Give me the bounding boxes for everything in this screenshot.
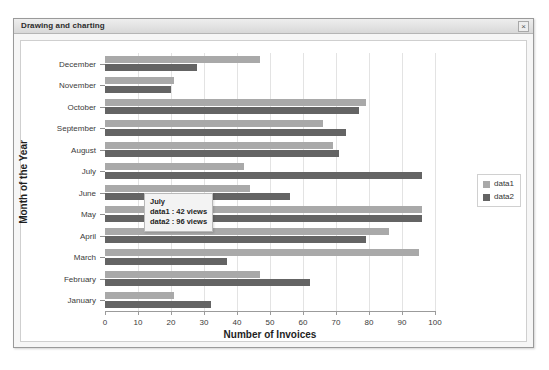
chart-panel: Number of Invoices Month of the Year dat…	[20, 40, 527, 342]
y-axis-tick	[100, 128, 105, 129]
x-gridline	[336, 53, 337, 311]
bar-data2-september[interactable]	[105, 129, 346, 136]
y-axis-tick	[100, 214, 105, 215]
bar-data1-october[interactable]	[105, 99, 366, 106]
bar-data1-february[interactable]	[105, 271, 260, 278]
tooltip-title: July	[150, 197, 207, 207]
window-title: Drawing and charting	[14, 22, 105, 30]
x-axis-tick	[402, 311, 403, 315]
x-axis-tick-label: 0	[103, 318, 107, 327]
y-axis-label: December	[21, 59, 96, 68]
x-axis-tick	[435, 311, 436, 315]
bar-data1-august[interactable]	[105, 142, 333, 149]
y-axis-tick	[100, 236, 105, 237]
bar-data2-november[interactable]	[105, 86, 171, 93]
x-axis-tick-label: 80	[365, 318, 374, 327]
bar-data2-august[interactable]	[105, 150, 339, 157]
x-gridline	[369, 53, 370, 311]
tooltip-data1-value: data1 : 42 views	[150, 207, 207, 217]
x-axis-tick	[270, 311, 271, 315]
y-axis-label: June	[21, 188, 96, 197]
x-axis-tick-label: 20	[167, 318, 176, 327]
legend-swatch-data1	[483, 181, 490, 188]
x-axis-tick-label: 40	[233, 318, 242, 327]
y-axis-tick	[100, 107, 105, 108]
y-axis-label: August	[21, 145, 96, 154]
x-axis-tick-label: 60	[299, 318, 308, 327]
y-axis-label: September	[21, 124, 96, 133]
y-axis-label: February	[21, 274, 96, 283]
y-axis-label: October	[21, 102, 96, 111]
bar-data1-november[interactable]	[105, 77, 174, 84]
chart-tooltip: July data1 : 42 views data2 : 96 views	[144, 193, 213, 232]
bar-data2-october[interactable]	[105, 107, 359, 114]
legend-label-data2: data2	[494, 193, 514, 201]
y-axis-tick	[100, 150, 105, 151]
x-axis-tick	[369, 311, 370, 315]
y-axis-tick	[100, 300, 105, 301]
legend-item[interactable]: data1	[483, 180, 516, 188]
x-axis-tick-label: 50	[266, 318, 275, 327]
chart-legend: data1 data2	[477, 174, 521, 207]
x-gridline	[435, 53, 436, 311]
y-axis-tick	[100, 193, 105, 194]
y-axis-label: May	[21, 210, 96, 219]
chart-canvas: Number of Invoices Month of the Year dat…	[21, 41, 526, 341]
y-axis-tick	[100, 64, 105, 65]
x-axis-tick	[105, 311, 106, 315]
bar-data1-march[interactable]	[105, 249, 419, 256]
x-axis-tick-label: 70	[332, 318, 341, 327]
legend-swatch-data2	[483, 194, 490, 201]
window-title-bar[interactable]: Drawing and charting ×	[14, 19, 533, 34]
x-axis-tick-label: 100	[428, 318, 441, 327]
bar-data1-july[interactable]	[105, 163, 244, 170]
x-gridline	[270, 53, 271, 311]
bar-data2-january[interactable]	[105, 301, 211, 308]
y-axis-tick	[100, 85, 105, 86]
x-axis-tick-label: 10	[134, 318, 143, 327]
bar-data2-december[interactable]	[105, 64, 197, 71]
y-axis-label: July	[21, 167, 96, 176]
bar-data2-april[interactable]	[105, 236, 366, 243]
x-axis-tick-label: 30	[200, 318, 209, 327]
x-gridline	[402, 53, 403, 311]
y-axis-label: November	[21, 81, 96, 90]
close-icon[interactable]: ×	[518, 21, 529, 32]
bar-data1-september[interactable]	[105, 120, 323, 127]
bar-data1-december[interactable]	[105, 56, 260, 63]
drawing-and-charting-window: Drawing and charting × Number of Invoice…	[13, 18, 534, 348]
tooltip-data2-value: data2 : 96 views	[150, 217, 207, 227]
y-axis-tick	[100, 279, 105, 280]
x-axis-tick-label: 90	[398, 318, 407, 327]
x-axis-tick	[171, 311, 172, 315]
bar-data2-march[interactable]	[105, 258, 227, 265]
x-axis-tick	[336, 311, 337, 315]
x-gridline	[303, 53, 304, 311]
bar-data2-july[interactable]	[105, 172, 422, 179]
plot-area	[105, 53, 435, 311]
legend-item[interactable]: data2	[483, 193, 516, 201]
x-axis-tick	[237, 311, 238, 315]
y-axis-label: January	[21, 296, 96, 305]
x-axis-title: Number of Invoices	[105, 329, 435, 340]
x-axis-tick	[138, 311, 139, 315]
x-axis-tick	[204, 311, 205, 315]
y-axis-label: March	[21, 253, 96, 262]
y-axis-tick	[100, 171, 105, 172]
y-axis-label: April	[21, 231, 96, 240]
bar-data2-february[interactable]	[105, 279, 310, 286]
y-axis-tick	[100, 257, 105, 258]
bar-data1-june[interactable]	[105, 185, 250, 192]
legend-label-data1: data1	[494, 180, 514, 188]
bar-data1-january[interactable]	[105, 292, 174, 299]
x-axis-tick	[303, 311, 304, 315]
